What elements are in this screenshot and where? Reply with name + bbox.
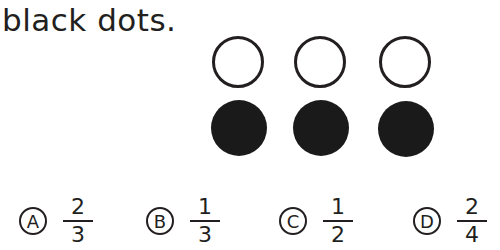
option-letter: D — [413, 207, 441, 235]
fraction: 2 4 — [457, 196, 487, 246]
numerator: 1 — [198, 196, 212, 218]
fraction: 1 3 — [190, 196, 220, 246]
denominator: 4 — [465, 224, 479, 246]
option-d[interactable]: D 2 4 — [413, 196, 487, 246]
black-dot — [378, 101, 434, 157]
denominator: 2 — [331, 224, 345, 246]
white-dot — [212, 36, 264, 88]
white-dot — [294, 36, 346, 88]
question-text: black dots. — [2, 2, 176, 38]
option-c[interactable]: C 1 2 — [279, 196, 353, 246]
fraction: 1 2 — [323, 196, 353, 246]
option-letter: C — [279, 207, 307, 235]
option-a[interactable]: A 2 3 — [19, 196, 93, 246]
option-letter: B — [146, 207, 174, 235]
numerator: 2 — [465, 196, 479, 218]
denominator: 3 — [198, 224, 212, 246]
black-dot — [211, 100, 267, 156]
black-dot — [293, 100, 349, 156]
fraction: 2 3 — [63, 196, 93, 246]
numerator: 2 — [71, 196, 85, 218]
denominator: 3 — [71, 224, 85, 246]
option-letter: A — [19, 207, 47, 235]
numerator: 1 — [331, 196, 345, 218]
option-b[interactable]: B 1 3 — [146, 196, 220, 246]
white-dot — [379, 36, 431, 88]
